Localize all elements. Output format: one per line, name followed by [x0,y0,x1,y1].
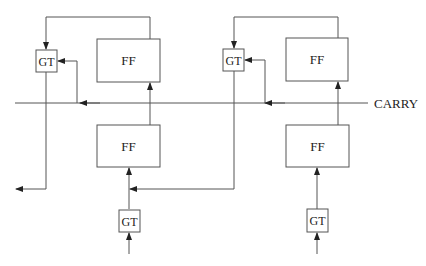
stage-1: GT FF FF GT [16,17,160,254]
flipflop-bottom-2-label: FF [310,139,324,154]
gate-bottom-2-label: GT [310,214,327,228]
flipflop-bottom-1-label: FF [121,139,135,154]
carry-tap-2 [245,60,265,103]
gate-top-1-label: GT [39,55,56,69]
flipflop-top-2-label: FF [310,52,324,67]
flipflop-top-1-label: FF [121,53,135,68]
gate-top-2-label: GT [226,54,243,68]
carry-label: CARRY [374,96,419,111]
counter-diagram: CARRY GT FF FF GT GT FF [0,0,426,266]
gate-output-wire-1 [16,72,46,189]
carry-tap-1 [58,61,77,103]
gate-bottom-1-label: GT [122,215,139,229]
stage-2: GT FF FF GT [130,17,349,254]
